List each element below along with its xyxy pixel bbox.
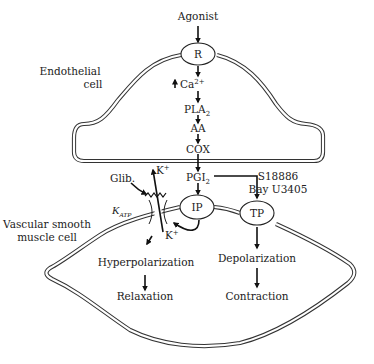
pathway-diagram: R IP TP Agonist Ca2+ PLA2 AA COX PGI2 En… — [0, 0, 374, 364]
tp-receptor-label: TP — [250, 207, 264, 219]
arrow-to-hyperpolarization — [147, 236, 152, 244]
agonist-label: Agonist — [177, 10, 219, 22]
antagonist-label-2: Bay U3405 — [249, 183, 308, 195]
relaxation-label: Relaxation — [117, 290, 174, 302]
hyperpolarization-label: Hyperpolarization — [98, 256, 195, 268]
katp-channel — [145, 170, 167, 238]
depolarization-label: Depolarization — [218, 252, 296, 264]
contraction-label: Contraction — [225, 290, 288, 302]
endothelial-cell-label-1: Endothelial — [39, 65, 101, 77]
receptor-r-label: R — [194, 48, 203, 60]
arrow-glib-to-channel — [131, 183, 146, 194]
antagonist-label-1: S18886 — [258, 170, 299, 182]
k-in-label: K+ — [165, 229, 179, 241]
calcium-label: Ca2+ — [180, 78, 205, 90]
smc-label-1: Vascular smooth — [2, 218, 91, 230]
ip-receptor-label: IP — [191, 201, 202, 213]
smc-label-2: muscle cell — [17, 231, 77, 243]
pla2-label: PLA2 — [184, 103, 210, 118]
aa-label: AA — [189, 122, 206, 134]
cox-label: COX — [186, 143, 210, 155]
glib-label: Glib. — [110, 172, 135, 184]
k-out-label: K+ — [156, 164, 170, 176]
endothelial-cell-label-2: cell — [84, 78, 103, 90]
smooth-muscle-membrane — [46, 207, 354, 346]
katp-label: KATP — [111, 204, 132, 219]
